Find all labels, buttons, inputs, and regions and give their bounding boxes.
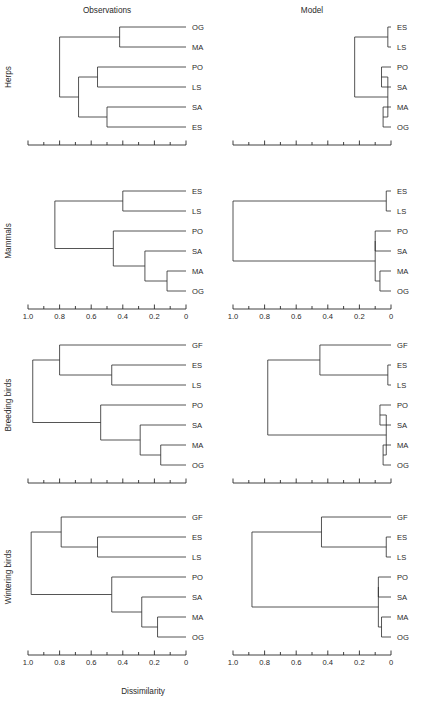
x-tick-label: 0.6 (291, 312, 302, 321)
x-tick-label: 0.2 (354, 312, 365, 321)
leaf-label-PO: PO (397, 227, 408, 236)
x-tick-label: 0.4 (323, 312, 334, 321)
leaf-label-GF: GF (397, 513, 408, 522)
leaf-label-SA: SA (397, 83, 408, 92)
leaf-label-ES: ES (397, 361, 407, 370)
panel-wintering-birds-model: GFESLSPOSAMAOG1.00.80.60.40.20 (228, 513, 410, 667)
x-tick-label: 1.0 (23, 658, 34, 667)
leaf-label-MA: MA (192, 267, 204, 276)
panel-herps-observations: OGMAPOLSSAES (28, 23, 204, 145)
column-header-observations: Observations (83, 6, 131, 15)
row-label-mammals: Mammals (4, 223, 13, 258)
leaf-label-GF: GF (397, 341, 408, 350)
panel-breeding-birds-model: GFESLSPOSAMAOG (233, 341, 409, 483)
leaf-label-PO: PO (192, 227, 203, 236)
leaf-label-SA: SA (397, 421, 408, 430)
leaf-label-OG: OG (397, 287, 409, 296)
x-tick-label: 0.8 (259, 312, 270, 321)
leaf-label-MA: MA (397, 103, 409, 112)
leaf-label-LS: LS (397, 207, 406, 216)
x-tick-label: 1.0 (23, 312, 34, 321)
leaf-label-LS: LS (192, 207, 201, 216)
leaf-label-SA: SA (192, 103, 203, 112)
leaf-label-SA: SA (397, 593, 408, 602)
leaf-label-MA: MA (192, 441, 204, 450)
leaf-label-PO: PO (192, 401, 203, 410)
leaf-label-ES: ES (397, 533, 407, 542)
panel-herps-model: ESLSPOSAMAOG (233, 23, 409, 145)
row-label-herps: Herps (4, 66, 13, 88)
leaf-label-ES: ES (397, 187, 407, 196)
leaf-label-OG: OG (397, 123, 409, 132)
dendrogram-svg: ObservationsModelOGMAPOLSSAESESLSPOSAMAO… (0, 0, 429, 701)
leaf-label-OG: OG (192, 287, 204, 296)
leaf-label-ES: ES (192, 187, 202, 196)
leaf-label-PO: PO (192, 573, 203, 582)
leaf-label-LS: LS (397, 43, 406, 52)
x-tick-label: 0 (389, 658, 393, 667)
leaf-label-OG: OG (192, 461, 204, 470)
leaf-label-MA: MA (397, 613, 409, 622)
dendrogram-figure: ObservationsModelOGMAPOLSSAESESLSPOSAMAO… (0, 0, 429, 701)
x-tick-label: 0.2 (354, 658, 365, 667)
panel-mammals-observations: ESLSPOSAMAOG1.00.80.60.40.20 (23, 187, 205, 321)
row-label-wintering-birds: Wintering birds (4, 550, 13, 605)
x-tick-label: 0.4 (118, 658, 129, 667)
leaf-label-ES: ES (192, 533, 202, 542)
x-tick-label: 1.0 (228, 312, 239, 321)
panel-breeding-birds-observations: GFESLSPOSAMAOG (28, 341, 204, 483)
leaf-label-OG: OG (397, 461, 409, 470)
x-tick-label: 0.2 (149, 658, 160, 667)
leaf-label-SA: SA (192, 593, 203, 602)
leaf-label-OG: OG (192, 23, 204, 32)
leaf-label-ES: ES (192, 123, 202, 132)
x-tick-label: 0 (184, 658, 188, 667)
leaf-label-PO: PO (397, 63, 408, 72)
x-tick-label: 0.2 (149, 312, 160, 321)
x-tick-label: 0 (184, 312, 188, 321)
leaf-label-MA: MA (192, 43, 204, 52)
x-tick-label: 0.4 (118, 312, 129, 321)
panel-wintering-birds-observations: GFESLSPOSAMAOG1.00.80.60.40.20 (23, 513, 205, 667)
leaf-label-PO: PO (397, 573, 408, 582)
leaf-label-OG: OG (192, 633, 204, 642)
leaf-label-LS: LS (397, 553, 406, 562)
x-tick-label: 0.8 (259, 658, 270, 667)
column-header-model: Model (301, 6, 323, 15)
x-tick-label: 0.6 (86, 312, 97, 321)
leaf-label-ES: ES (192, 361, 202, 370)
x-tick-label: 0.8 (54, 312, 65, 321)
leaf-label-SA: SA (192, 421, 203, 430)
leaf-label-LS: LS (192, 381, 201, 390)
leaf-label-LS: LS (192, 553, 201, 562)
leaf-label-PO: PO (397, 401, 408, 410)
leaf-label-LS: LS (192, 83, 201, 92)
leaf-label-MA: MA (397, 267, 409, 276)
axis-title-dissimilarity: Dissimilarity (121, 687, 166, 696)
x-tick-label: 0.4 (323, 658, 334, 667)
x-tick-label: 0.8 (54, 658, 65, 667)
x-tick-label: 1.0 (228, 658, 239, 667)
leaf-label-PO: PO (192, 63, 203, 72)
leaf-label-MA: MA (192, 613, 204, 622)
leaf-label-OG: OG (397, 633, 409, 642)
leaf-label-GF: GF (192, 513, 203, 522)
leaf-label-MA: MA (397, 441, 409, 450)
x-tick-label: 0 (389, 312, 393, 321)
leaf-label-SA: SA (397, 247, 408, 256)
leaf-label-SA: SA (192, 247, 203, 256)
x-tick-label: 0.6 (86, 658, 97, 667)
panel-mammals-model: ESLSPOSAMAOG1.00.80.60.40.20 (228, 187, 410, 321)
leaf-label-ES: ES (397, 23, 407, 32)
row-label-breeding-birds: Breeding birds (4, 379, 13, 432)
leaf-label-LS: LS (397, 381, 406, 390)
leaf-label-GF: GF (192, 341, 203, 350)
x-tick-label: 0.6 (291, 658, 302, 667)
